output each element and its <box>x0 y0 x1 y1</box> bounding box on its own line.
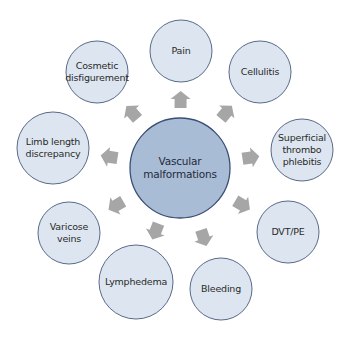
node-label-cosmetic-disfigurement: Cosmetic disfigurement <box>66 41 128 103</box>
node-label-pain: Pain <box>150 20 212 82</box>
node-label-limb-length-discrepancy: Limb length discrepancy <box>17 112 89 184</box>
center-label: Vascular malformations <box>130 118 230 218</box>
arrow-icon <box>99 146 119 168</box>
node-label-varicose-veins: Varicose veins <box>38 202 100 264</box>
arrow-icon <box>143 220 168 243</box>
node-label-cellulitis: Cellulitis <box>229 41 291 103</box>
arrow-icon <box>103 193 128 219</box>
arrow-icon <box>230 192 255 218</box>
node-label-lymphedema: Lymphedema <box>99 245 173 319</box>
node-label-superficial-thrombophlebitis: Superficial thrombo phlebitis <box>271 119 333 181</box>
node-label-dvt-pe: DVT/PE <box>257 201 319 263</box>
arrow-icon <box>241 146 261 168</box>
node-label-bleeding: Bleeding <box>190 258 252 320</box>
arrow-icon <box>171 91 191 108</box>
arrow-icon <box>192 227 216 250</box>
